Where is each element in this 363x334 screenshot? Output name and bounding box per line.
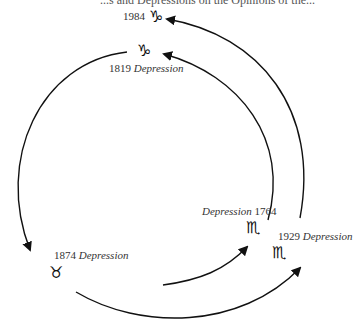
- arrow-1929-to-1984: [167, 19, 304, 218]
- capricorn-icon: ♑: [137, 43, 151, 59]
- arrow-1764-to-1819: [164, 54, 273, 220]
- arrow-1874-to-1764: [163, 247, 247, 285]
- taurus-icon: ♉: [49, 265, 63, 281]
- node-1874-year: 1874: [54, 249, 76, 261]
- node-1764-text: Depression: [202, 205, 252, 217]
- scorpio-icon: ♏: [272, 245, 286, 261]
- arrow-1874-to-1929: [76, 268, 300, 318]
- node-1929-label: 1929 Depression: [278, 230, 352, 242]
- node-1819-label: 1819 Depression: [109, 62, 183, 74]
- diagram-arrows: [0, 0, 363, 334]
- node-1764-year: 1764: [254, 205, 276, 217]
- node-1984-year: 1984: [123, 10, 145, 22]
- node-1819-text: Depression: [134, 62, 184, 74]
- node-1764-label: Depression 1764: [202, 205, 276, 217]
- node-1819-year: 1819: [109, 62, 131, 74]
- arrow-1819-to-1874: [18, 52, 127, 250]
- node-1929-text: Depression: [303, 230, 353, 242]
- node-1929-year: 1929: [278, 230, 300, 242]
- cycle-diagram: ...s and Depressions on the Opinions of …: [0, 0, 363, 334]
- capricorn-icon: ♑: [149, 9, 163, 25]
- node-1874-text: Depression: [79, 249, 129, 261]
- scorpio-icon: ♏: [246, 220, 260, 236]
- node-1874-label: 1874 Depression: [54, 249, 128, 261]
